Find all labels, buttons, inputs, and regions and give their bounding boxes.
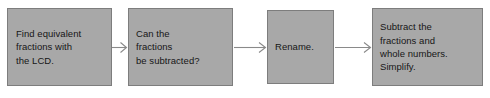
arrow-can-to-rename — [234, 43, 266, 53]
flowchart-node-label: Rename. — [268, 40, 333, 53]
flowchart-node-rename: Rename. — [267, 10, 334, 84]
flowchart-node-subtract-and-simplify: Subtract the fractions and whole numbers… — [372, 8, 483, 86]
flowchart-node-can-fractions-be-subtracted: Can the fractions be subtracted? — [128, 8, 233, 86]
flowchart-diagram: Find equivalent fractions with the LCD. … — [0, 0, 490, 98]
flowchart-node-label: Subtract the fractions and whole numbers… — [373, 20, 482, 74]
flowchart-node-find-equivalent-fractions: Find equivalent fractions with the LCD. — [7, 8, 112, 86]
arrow-find-to-can — [112, 43, 127, 53]
arrow-rename-to-subtract — [335, 43, 371, 53]
flowchart-node-label: Can the fractions be subtracted? — [129, 27, 232, 67]
flowchart-node-label: Find equivalent fractions with the LCD. — [8, 27, 111, 67]
